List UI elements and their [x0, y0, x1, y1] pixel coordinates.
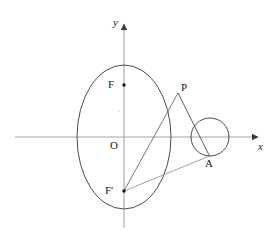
segment-p-to-fprime	[124, 93, 178, 191]
point-label-f: F	[108, 79, 114, 90]
focus-f-dot	[122, 83, 125, 86]
focus-fprime-dot	[122, 189, 125, 192]
point-label-a: A	[205, 158, 213, 169]
origin-label: O	[110, 140, 118, 151]
interior-speck	[118, 110, 119, 111]
y-axis-label: y	[113, 17, 118, 28]
geometry-figure: y x O F F′ P A	[0, 0, 278, 249]
x-axis-label: x	[258, 141, 263, 152]
geometry-canvas	[0, 0, 278, 249]
point-label-p: P	[181, 82, 187, 93]
point-label-f-prime: F′	[105, 185, 114, 196]
segment-fprime-to-a	[124, 156, 210, 191]
